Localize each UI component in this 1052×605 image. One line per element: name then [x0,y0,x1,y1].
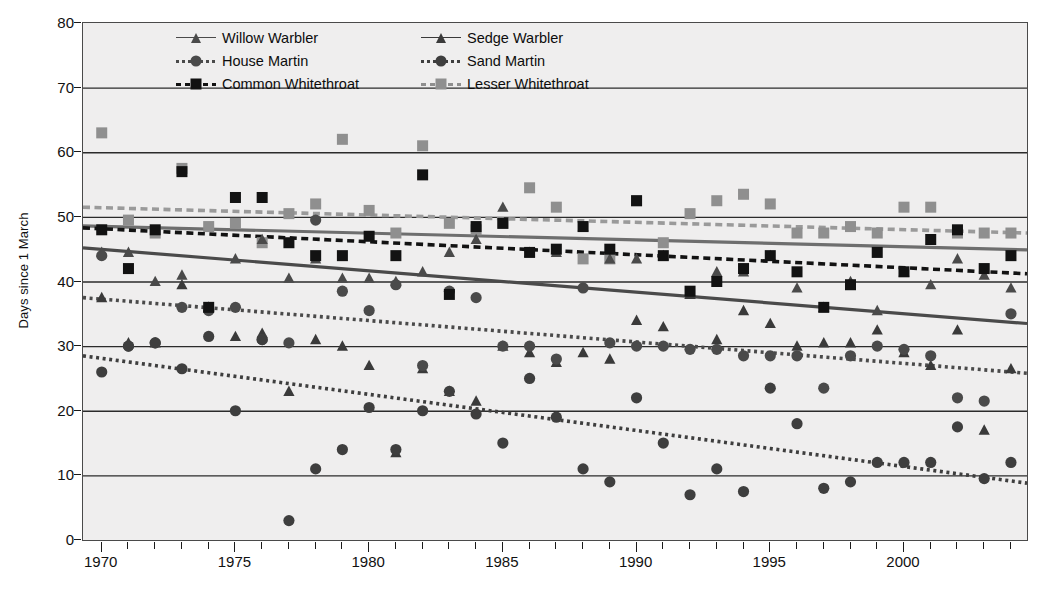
data-point-common-whitethroat [524,247,535,258]
data-point-sedge-warbler [337,340,348,350]
data-point-house-martin [872,341,883,352]
x-tick-mark [823,542,824,549]
x-tick-mark [1010,542,1011,549]
y-tick-label: 60 [28,143,74,160]
data-point-lesser-whitethroat [1005,228,1016,239]
data-point-common-whitethroat [604,244,615,255]
data-point-common-whitethroat [176,166,187,177]
data-point-lesser-whitethroat [337,134,348,145]
x-tick-mark [502,542,503,552]
data-point-common-whitethroat [792,266,803,277]
legend-label: House Martin [222,53,308,69]
legend-marker-square-icon [191,78,202,89]
data-point-common-whitethroat [230,192,241,203]
data-point-willow-warbler [791,282,802,292]
data-point-house-martin [497,341,508,352]
data-point-common-whitethroat [203,302,214,313]
legend-item-willow-warbler[interactable]: Willow Warbler [176,30,421,46]
data-point-sand-martin [872,457,883,468]
x-tick-label: 1970 [84,553,117,570]
y-tick-label: 30 [28,337,74,354]
legend-item-common-whitethroat[interactable]: Common Whitethroat [176,76,421,92]
data-point-sand-martin [631,392,642,403]
data-point-lesser-whitethroat [283,208,294,219]
data-point-sedge-warbler [176,279,187,289]
chart-legend: Willow WarblerSedge WarblerHouse MartinS… [176,26,656,96]
data-point-sand-martin [310,463,321,474]
legend-label: Willow Warbler [222,30,318,46]
legend-item-lesser-whitethroat[interactable]: Lesser Whitethroat [421,76,666,92]
legend-key [421,54,461,68]
data-point-sand-martin [658,437,669,448]
data-point-sand-martin [150,337,161,348]
data-point-sedge-warbler [765,318,776,328]
data-point-common-whitethroat [925,234,936,245]
data-point-house-martin [577,282,588,293]
data-point-house-martin [471,292,482,303]
data-point-sand-martin [1005,457,1016,468]
data-point-sand-martin [711,463,722,474]
legend-marker-circle-icon [436,55,447,66]
data-point-house-martin [176,302,187,313]
x-tick-mark [983,542,984,549]
y-tick-mark [74,281,81,282]
x-tick-label: 1990 [619,553,652,570]
x-tick-mark [261,542,262,549]
data-point-willow-warbler [176,269,187,279]
x-tick-mark [636,542,637,552]
data-point-lesser-whitethroat [96,127,107,138]
data-point-sand-martin [791,418,802,429]
legend-key [176,77,216,91]
y-tick-label: 40 [28,272,74,289]
data-point-lesser-whitethroat [792,228,803,239]
data-point-common-whitethroat [337,250,348,261]
y-tick-label: 80 [28,14,74,31]
x-tick-label: 1985 [485,553,518,570]
x-tick-mark [662,542,663,549]
data-point-lesser-whitethroat [203,221,214,232]
y-tick-mark [74,22,81,23]
x-tick-label: 1995 [753,553,786,570]
y-tick-mark [74,87,81,88]
data-point-sedge-warbler [872,324,883,334]
data-point-house-martin [631,341,642,352]
data-point-common-whitethroat [872,247,883,258]
data-point-house-martin [791,350,802,361]
data-point-sand-martin [444,386,455,397]
data-point-sand-martin [845,476,856,487]
legend-label: Common Whitethroat [222,76,359,92]
data-point-willow-warbler [1005,282,1016,292]
legend-key [176,31,216,45]
data-point-house-martin [390,279,401,290]
plot-area: Willow WarblerSedge WarblerHouse MartinS… [82,22,1028,541]
x-tick-mark [315,542,316,549]
data-point-sand-martin [203,331,214,342]
x-tick-mark [689,542,690,549]
x-tick-mark [876,542,877,549]
data-point-sedge-warbler [738,305,749,315]
x-tick-label: 1975 [218,553,251,570]
data-point-sedge-warbler [845,337,856,347]
data-point-sedge-warbler [604,353,615,363]
data-point-common-whitethroat [765,250,776,261]
legend-item-house-martin[interactable]: House Martin [176,53,421,69]
legend-item-sedge-warbler[interactable]: Sedge Warbler [421,30,666,46]
y-tick-label: 10 [28,466,74,483]
data-point-house-martin [765,350,776,361]
data-point-house-martin [818,383,829,394]
data-point-house-martin [310,215,321,226]
y-tick-mark [74,410,81,411]
data-point-lesser-whitethroat [658,237,669,248]
data-point-sand-martin [684,489,695,500]
data-point-house-martin [684,344,695,355]
data-point-common-whitethroat [390,250,401,261]
data-point-house-martin [230,302,241,313]
legend-item-sand-martin[interactable]: Sand Martin [421,53,666,69]
y-tick-mark [74,216,81,217]
data-point-sand-martin [524,373,535,384]
data-point-sand-martin [551,412,562,423]
data-point-common-whitethroat [631,195,642,206]
x-tick-mark [716,542,717,549]
data-point-sedge-warbler [577,347,588,357]
data-point-common-whitethroat [123,263,134,274]
